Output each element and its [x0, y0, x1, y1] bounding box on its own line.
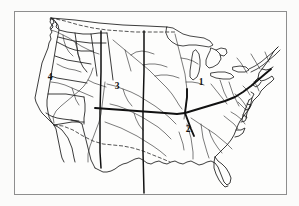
mexican-border: [46, 113, 170, 162]
map-drawing: 4 3 1 2: [15, 12, 287, 195]
divider-west: [100, 31, 101, 168]
region-labels: 4 3 1 2: [48, 72, 204, 134]
region-dividers: [100, 31, 144, 193]
gulf-coast-florida: [95, 157, 231, 187]
figure-container: 4 3 1 2: [0, 0, 299, 206]
canadian-border: [51, 18, 175, 32]
mississippi-ohio-main-stem: [95, 69, 271, 136]
region-label-1: 1: [199, 77, 204, 87]
map-frame: 4 3 1 2: [14, 11, 287, 195]
region-label-2: 2: [186, 124, 191, 134]
region-label-4: 4: [48, 72, 53, 82]
interior-outlines: [48, 30, 113, 125]
region-label-3: 3: [115, 81, 120, 91]
great-lakes: [166, 27, 280, 80]
